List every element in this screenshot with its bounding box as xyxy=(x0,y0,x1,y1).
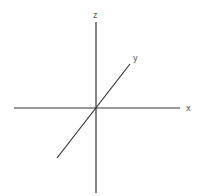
x-axis-label: x xyxy=(186,104,191,113)
y-axis-label: y xyxy=(133,54,138,63)
y-axis-line xyxy=(57,64,130,158)
axes-diagram: x y z xyxy=(0,0,202,196)
z-axis-label: z xyxy=(93,11,97,20)
